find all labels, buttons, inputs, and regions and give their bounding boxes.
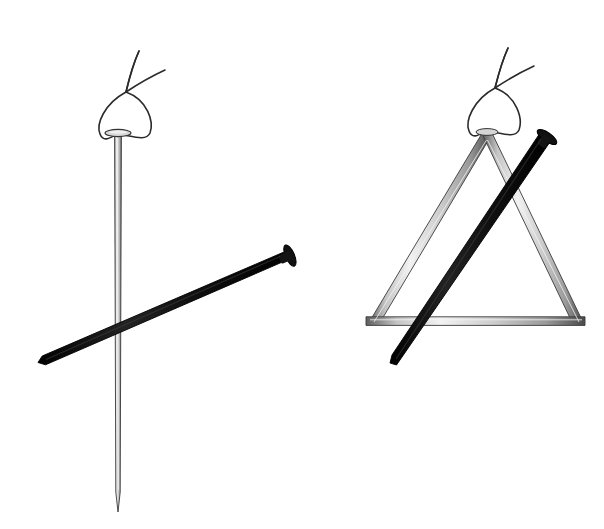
figure-svg (0, 0, 604, 529)
figure-background (0, 0, 604, 529)
triangle-apex-joint (476, 129, 498, 136)
light-nail-head-highlight (109, 131, 127, 134)
figure-canvas (0, 0, 604, 529)
triangle-base-rod (366, 317, 585, 326)
